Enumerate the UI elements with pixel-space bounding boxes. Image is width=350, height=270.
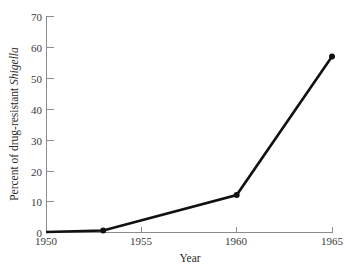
x-axis-tick-labels: 1950 1955 1960 1965 (35, 235, 344, 247)
y-axis-title-species: Shigella (8, 47, 21, 85)
axis-spines (47, 16, 333, 233)
chart-plot-area: 70 60 50 40 30 20 10 0 1950 1955 1960 19… (0, 0, 350, 270)
data-series-markers (100, 54, 335, 234)
y-axis-tick-labels: 70 60 50 40 30 20 10 0 (31, 11, 43, 239)
y-tick-label: 50 (31, 73, 43, 85)
x-axis-title: Year (179, 252, 200, 264)
x-tick-label: 1955 (130, 235, 153, 247)
y-tick-label: 60 (31, 42, 43, 54)
y-axis-tickmarks (47, 17, 54, 233)
y-axis-title: Percent of drug-resistant Shigella (8, 47, 21, 201)
y-tick-label: 10 (31, 196, 43, 208)
data-series-line (46, 57, 332, 232)
y-tick-label: 20 (31, 166, 43, 178)
data-point-marker (329, 54, 335, 60)
y-tick-label: 70 (31, 11, 43, 23)
x-tick-label: 1950 (35, 235, 58, 247)
chart-figure: 70 60 50 40 30 20 10 0 1950 1955 1960 19… (0, 0, 350, 270)
data-point-marker (100, 227, 106, 233)
y-tick-label: 40 (31, 104, 43, 116)
y-axis-title-prefix: Percent of drug-resistant (8, 85, 21, 201)
x-tick-label: 1960 (225, 235, 248, 247)
y-tick-label: 30 (31, 135, 43, 147)
x-tick-label: 1965 (321, 235, 344, 247)
data-point-marker (234, 192, 240, 198)
